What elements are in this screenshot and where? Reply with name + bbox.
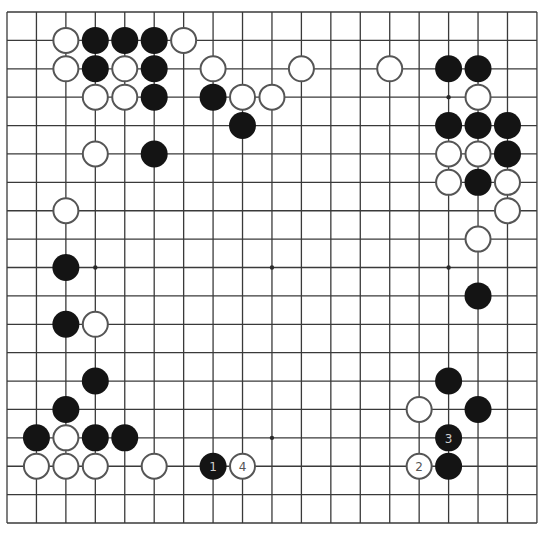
- white-stone: [83, 312, 108, 337]
- white-stone: [171, 28, 196, 53]
- black-stone: [435, 453, 462, 480]
- white-stone: [53, 425, 78, 450]
- black-stone: [229, 112, 256, 139]
- black-stone: [82, 27, 109, 54]
- white-stone: [83, 454, 108, 479]
- star-point: [270, 265, 274, 269]
- black-stone: [200, 84, 227, 111]
- black-stone: [52, 396, 79, 423]
- numbered-move-4: 4: [230, 454, 255, 479]
- move-number-label: 1: [209, 460, 217, 474]
- white-stone: [83, 85, 108, 110]
- white-stone: [495, 170, 520, 195]
- white-stone: [53, 454, 78, 479]
- white-stone: [466, 85, 491, 110]
- white-stone: [53, 28, 78, 53]
- white-stone: [83, 141, 108, 166]
- black-stone: [465, 112, 492, 139]
- star-point: [270, 436, 274, 440]
- white-stone: [436, 170, 461, 195]
- move-number-label: 4: [239, 460, 247, 474]
- black-stone: [435, 112, 462, 139]
- black-stone: [494, 140, 521, 167]
- black-stone: [52, 254, 79, 281]
- black-stone: [435, 55, 462, 82]
- white-stone: [230, 85, 255, 110]
- white-stone: [436, 141, 461, 166]
- white-stone: [407, 397, 432, 422]
- black-stone: [23, 424, 50, 451]
- white-stone: [24, 454, 49, 479]
- black-stone: [494, 112, 521, 139]
- black-stone: [111, 424, 138, 451]
- star-point: [93, 265, 97, 269]
- white-stone: [112, 56, 137, 81]
- white-stone: [495, 198, 520, 223]
- black-stone: [465, 169, 492, 196]
- black-stone: [465, 55, 492, 82]
- black-stone: [82, 368, 109, 395]
- numbered-move-2: 2: [407, 454, 432, 479]
- white-stone: [201, 56, 226, 81]
- numbered-move-1: 1: [200, 453, 227, 480]
- white-stone: [259, 85, 284, 110]
- numbered-move-3: 3: [435, 424, 462, 451]
- black-stone: [465, 396, 492, 423]
- white-stone: [289, 56, 314, 81]
- white-stone: [112, 85, 137, 110]
- black-stone: [141, 84, 168, 111]
- black-stone: [82, 55, 109, 82]
- white-stone: [466, 141, 491, 166]
- black-stone: [435, 368, 462, 395]
- move-number-label: 3: [445, 432, 453, 446]
- black-stone: [141, 55, 168, 82]
- white-stone: [53, 198, 78, 223]
- star-point: [446, 95, 450, 99]
- go-board[interactable]: 1234: [0, 0, 559, 543]
- black-stone: [52, 311, 79, 338]
- black-stone: [141, 27, 168, 54]
- white-stone: [53, 56, 78, 81]
- white-stone: [377, 56, 402, 81]
- black-stone: [111, 27, 138, 54]
- move-number-label: 2: [415, 460, 423, 474]
- star-point: [446, 265, 450, 269]
- white-stone: [142, 454, 167, 479]
- black-stone: [82, 424, 109, 451]
- black-stone: [141, 140, 168, 167]
- black-stone: [465, 282, 492, 309]
- white-stone: [466, 227, 491, 252]
